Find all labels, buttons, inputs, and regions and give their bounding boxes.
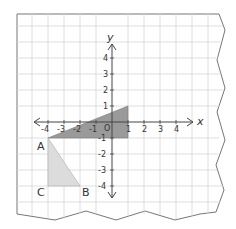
origin-label: O bbox=[104, 124, 110, 133]
x-tick-label: 1 bbox=[126, 125, 131, 134]
x-tick-label: -4 bbox=[41, 125, 49, 134]
x-tick-label: 3 bbox=[158, 125, 163, 134]
x-tick-label: -2 bbox=[73, 125, 81, 134]
point-label-c: C bbox=[37, 186, 45, 199]
x-tick-label: 2 bbox=[142, 125, 147, 134]
y-tick-label: 1 bbox=[103, 102, 108, 111]
y-tick-label: -1 bbox=[98, 134, 106, 143]
y-tick-label: 4 bbox=[103, 54, 108, 63]
y-tick-label: -4 bbox=[98, 182, 106, 191]
graph-paper-diagram: y x O -4 -3 -2 -1 1 2 3 4 4 3 2 1 -1 -2 … bbox=[0, 0, 236, 229]
y-tick-label: -3 bbox=[98, 166, 106, 175]
y-tick-label: 2 bbox=[103, 86, 108, 95]
x-tick-label: 4 bbox=[174, 125, 179, 134]
x-tick-label: -3 bbox=[57, 125, 65, 134]
y-axis-label: y bbox=[106, 31, 114, 44]
point-label-b: B bbox=[82, 186, 90, 199]
y-tick-label: 3 bbox=[103, 70, 108, 79]
x-tick-label: -1 bbox=[89, 125, 97, 134]
point-label-a: A bbox=[37, 140, 45, 153]
x-axis-label: x bbox=[196, 115, 204, 128]
y-tick-label: -2 bbox=[98, 150, 106, 159]
